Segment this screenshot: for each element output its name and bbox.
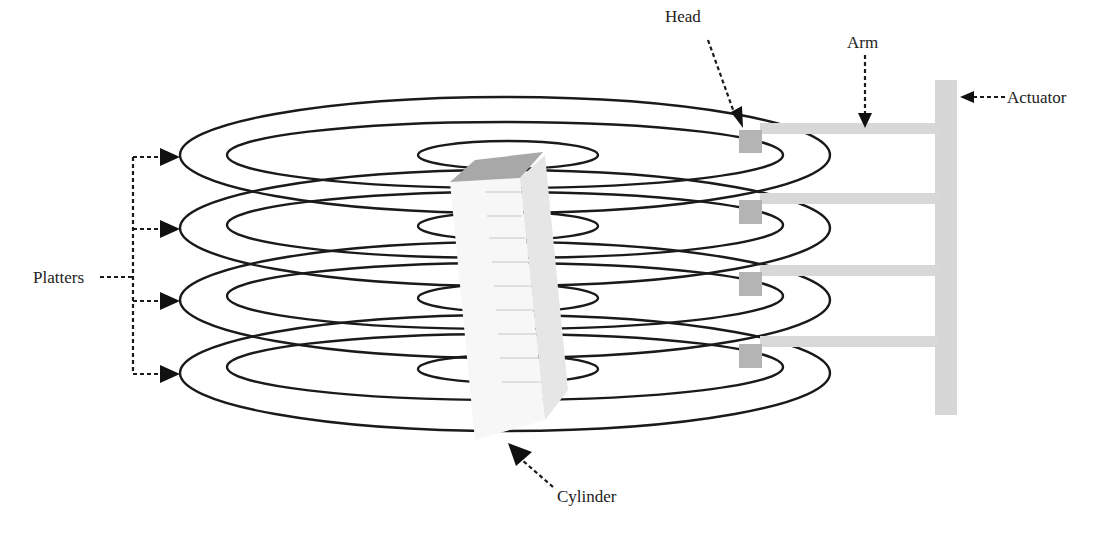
- actuator-label: Actuator: [1007, 88, 1067, 107]
- arrowhead-icon: [160, 365, 180, 383]
- arrowhead-icon: [508, 443, 532, 466]
- platters-label: Platters: [33, 268, 84, 287]
- cylinder-label: Cylinder: [557, 487, 617, 506]
- head-label: Head: [665, 7, 701, 26]
- actuator-callout: [960, 91, 1005, 103]
- arm-label: Arm: [847, 33, 878, 52]
- arm-4: [739, 336, 938, 368]
- head-1: [739, 130, 762, 153]
- arrowhead-icon: [960, 91, 974, 103]
- hard-disk-diagram: Head Arm Actuator Platters Cylinder: [0, 0, 1110, 535]
- head-2: [739, 200, 762, 224]
- platters-callout: [100, 148, 180, 383]
- arrowhead-icon: [160, 220, 180, 238]
- arm-1: [739, 123, 938, 153]
- head-callout: [708, 40, 743, 128]
- arm-2: [739, 193, 938, 224]
- arrowhead-icon: [160, 148, 180, 166]
- cylinder-shape: [450, 152, 568, 440]
- arrowhead-icon: [160, 292, 180, 310]
- arm-callout: [858, 55, 872, 128]
- actuator-bar: [935, 80, 957, 415]
- head-3: [739, 272, 762, 296]
- cylinder-callout: [508, 443, 553, 487]
- head-4: [739, 344, 762, 368]
- arm-3: [739, 265, 938, 296]
